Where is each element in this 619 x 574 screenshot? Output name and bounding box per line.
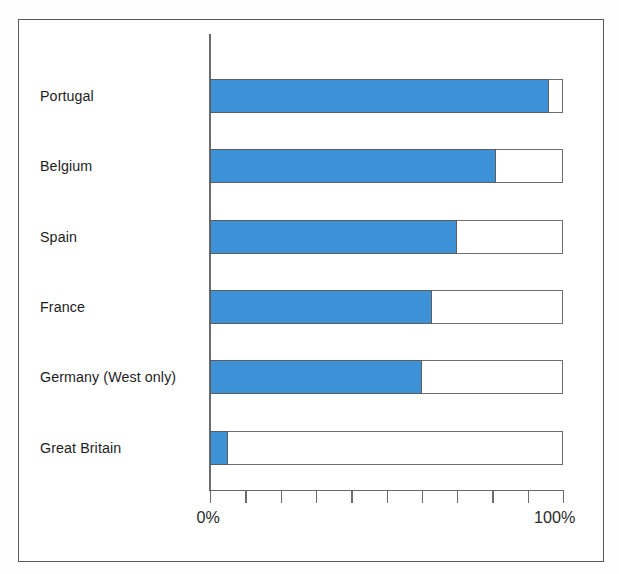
x-axis-tick [457,490,458,503]
plot-area: Portugal Belgium Spain France Germany (W… [0,0,619,574]
x-axis-min-label: 0% [197,508,220,528]
x-axis-max-label: 100% [534,508,575,528]
bar-fill [210,149,496,183]
x-axis-tick [245,490,246,503]
bar-fill [210,79,549,113]
bar-row[interactable] [210,290,563,324]
bar-fill [210,360,422,394]
x-axis-tick [281,490,282,503]
x-axis-tick [387,490,388,503]
x-axis-tick [316,490,317,503]
x-axis-tick [210,490,211,503]
bar-fill [210,290,432,324]
x-axis-tick [492,490,493,503]
bar-track [210,431,563,465]
x-axis-tick [528,490,529,503]
bar-row[interactable] [210,149,563,183]
category-label-belgium: Belgium [40,157,196,175]
x-axis-tick [351,490,352,503]
bar-row[interactable] [210,79,563,113]
bar-fill [210,431,228,465]
category-label-great-britain: Great Britain [40,439,196,457]
x-axis-tick [422,490,423,503]
category-label-france: France [40,298,196,316]
x-axis-tick [563,490,564,503]
chart-figure: Portugal Belgium Spain France Germany (W… [0,0,619,574]
bar-row[interactable] [210,220,563,254]
bar-row[interactable] [210,360,563,394]
category-label-portugal: Portugal [40,87,196,105]
bar-fill [210,220,457,254]
category-label-spain: Spain [40,228,196,246]
category-label-germany-west-only: Germany (West only) [40,368,196,386]
bar-row[interactable] [210,431,563,465]
